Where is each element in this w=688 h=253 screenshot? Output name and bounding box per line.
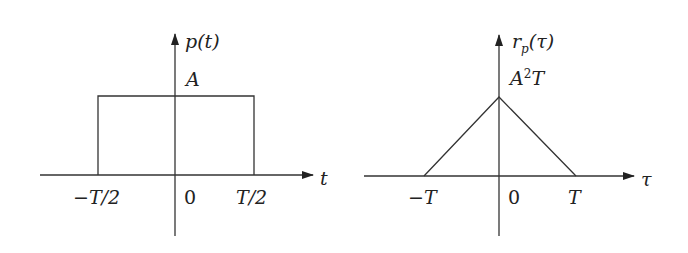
pulse-curve <box>98 96 254 175</box>
x-axis-label: τ <box>641 170 652 189</box>
amplitude-label: A <box>186 70 200 89</box>
tick-neg-half-t: −T/2 <box>73 188 120 207</box>
x-axis-label: t <box>320 169 328 188</box>
diagram-canvas <box>0 0 688 253</box>
tick-zero: 0 <box>184 188 196 207</box>
y-axis-label: p(t) <box>185 32 220 51</box>
tick-t: T <box>568 188 581 207</box>
tick-zero: 0 <box>508 188 520 207</box>
y-axis-label: rp(τ) <box>512 32 554 55</box>
peak-label: A2T <box>510 68 544 88</box>
triangle-curve <box>424 97 576 176</box>
autocorr-plot <box>364 35 634 236</box>
tick-half-t: T/2 <box>236 188 267 207</box>
tick-neg-t: −T <box>408 188 437 207</box>
